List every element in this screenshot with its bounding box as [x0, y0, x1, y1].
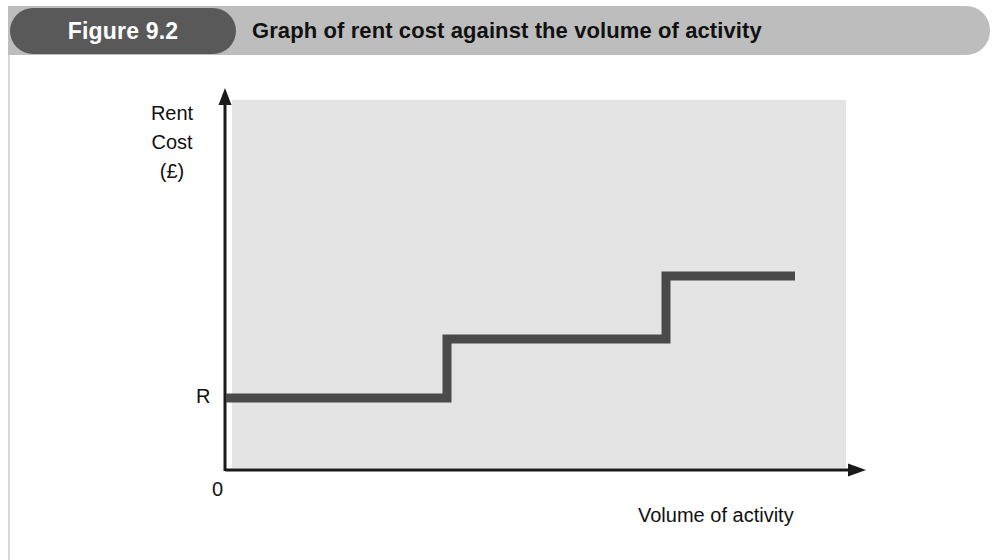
x-axis-label: Volume of activity [638, 504, 794, 527]
y-axis-label: Rent Cost (£) [128, 99, 216, 186]
x-axis [225, 464, 866, 477]
y-axis-tick-label-r: R [196, 385, 210, 408]
step-cost-line [226, 276, 795, 398]
y-axis-label-line-2: Cost [128, 128, 216, 157]
y-axis-label-line-1: Rent [128, 99, 216, 128]
chart-canvas: Rent Cost (£) R 0 Volume of activity [0, 55, 999, 560]
figure-number-badge: Figure 9.2 [10, 8, 236, 54]
figure-number-label: Figure 9.2 [68, 18, 179, 45]
figure-title: Graph of rent cost against the volume of… [252, 8, 762, 54]
y-axis [219, 88, 232, 471]
origin-label: 0 [212, 478, 223, 501]
figure-container: Figure 9.2 Graph of rent cost against th… [0, 0, 999, 560]
y-axis-label-line-3: (£) [128, 157, 216, 186]
